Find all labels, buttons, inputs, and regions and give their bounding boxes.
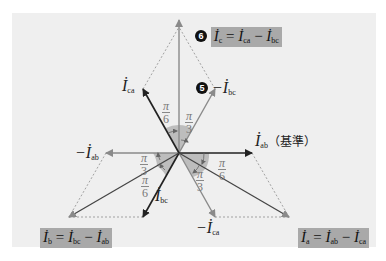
eq-operator: − (81, 229, 97, 245)
label-subscript: ca (127, 86, 134, 95)
equation-box-i-c: İc = İca − İbc (211, 27, 282, 47)
eq-term2-sub: bc (271, 36, 279, 45)
step-marker-6: 6 (195, 30, 207, 42)
angle-den: 6 (218, 170, 226, 182)
angle-label-lower-left: π6 (141, 174, 149, 199)
label-subscript: ab (91, 153, 99, 162)
label-symbol: −İ (75, 144, 91, 161)
label-i-bc: İbc (155, 188, 168, 205)
eq-term1-sub: ab (331, 237, 339, 246)
angle-label-right: π6 (218, 157, 226, 182)
label-subscript: ca (212, 228, 219, 237)
vector-i-ca (143, 89, 179, 153)
eq-equals: = (310, 229, 326, 245)
label-i-ca: İca (122, 78, 134, 95)
label-neg-i-ca: −İca (196, 220, 219, 237)
angle-label-lower-middle: π3 (196, 168, 204, 193)
reference-note: （基準） (268, 135, 316, 149)
angle-den: 6 (162, 113, 170, 125)
angle-label-upper-left: π6 (162, 100, 170, 125)
eq-equals: = (52, 229, 68, 245)
equation-i-c: 6 İc = İca − İbc (195, 27, 282, 47)
equation-box-i-b: İb = İbc − İab (40, 228, 112, 248)
label-neg-i-ab: −İab (75, 145, 99, 162)
angle-den: 3 (196, 181, 204, 193)
label-neg-i-bc: 5 −İbc (196, 80, 236, 97)
step-marker-5: 5 (196, 82, 208, 94)
eq-term2-sub: ca (359, 237, 366, 246)
eq-operator: − (250, 28, 266, 44)
eq-term1-sub: bc (73, 237, 81, 246)
angle-den: 6 (141, 187, 149, 199)
label-subscript: bc (228, 88, 236, 97)
angle-den: 3 (185, 123, 193, 135)
label-subscript: ab (260, 141, 268, 150)
label-symbol: −İ (212, 79, 228, 96)
label-i-ab: İab（基準） (255, 133, 316, 150)
vector-i-b (69, 153, 179, 217)
equation-box-i-a: İa = İab − İca (298, 228, 369, 248)
eq-equals: = (222, 28, 238, 44)
eq-operator: − (338, 229, 354, 245)
label-subscript: bc (160, 196, 168, 205)
eq-term2-sub: ab (102, 237, 110, 246)
angle-label-upper-right: π3 (185, 110, 193, 135)
label-symbol: −İ (196, 219, 212, 236)
